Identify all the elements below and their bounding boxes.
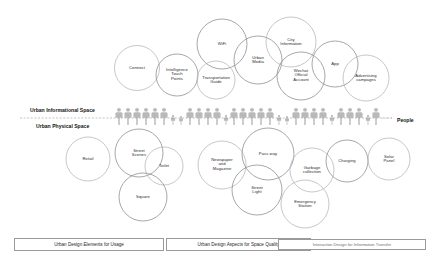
person-figure: [115, 108, 122, 125]
person-figure: [239, 108, 246, 125]
circle-retail: [66, 137, 110, 181]
person-figure: [257, 108, 264, 125]
circle-wechat-official-account: [277, 52, 325, 100]
person-figure: [133, 108, 140, 125]
person-figure: [310, 108, 317, 125]
person-figure: [301, 108, 308, 125]
circle-advertising-campaigns: [343, 55, 389, 101]
circle-street-scenes: [115, 129, 163, 177]
person-figure: [346, 108, 353, 125]
person-figure: [186, 108, 193, 125]
circle-intelligence-touch-points: [156, 54, 198, 96]
person-figure: [195, 108, 202, 125]
person-figure: [124, 108, 131, 125]
person-figure: [151, 108, 158, 125]
circle-app: [312, 41, 358, 87]
lower-circle-group: [66, 128, 410, 228]
upper-circle-group: [115, 17, 390, 101]
people-pictogram-row: [115, 108, 391, 125]
person-figure: [171, 115, 175, 125]
person-figure: [319, 108, 326, 125]
circle-garbage-collection: [290, 148, 334, 192]
label-people: People: [397, 117, 414, 123]
person-figure: [248, 108, 255, 125]
person-figure: [292, 108, 299, 125]
circle-pass-way: [242, 128, 294, 180]
circle-newspaper-and-magazine: [198, 141, 246, 189]
person-figure: [277, 115, 281, 125]
circle-street-light: [232, 165, 282, 215]
person-figure: [330, 115, 334, 125]
legend-usage-label: Urban Design Elements for Usage: [54, 242, 124, 247]
circle-emergency-station: [281, 180, 329, 228]
diagram-svg: [0, 0, 435, 263]
legend-usage: Urban Design Elements for Usage: [14, 238, 164, 251]
legend-information: Interaction Design for Information Trans…: [278, 239, 426, 250]
person-figure: [285, 116, 289, 125]
person-figure: [204, 108, 211, 125]
divider-dot: [382, 117, 383, 118]
person-figure: [213, 108, 220, 125]
person-figure: [224, 115, 228, 125]
circle-square: [119, 173, 167, 221]
circle-connect: [115, 46, 160, 91]
person-figure: [179, 116, 183, 125]
label-urban-physical-space: Urban Physical Space: [36, 123, 89, 129]
circle-wifi: [197, 19, 247, 69]
circle-transportation-guide: [197, 61, 235, 99]
person-figure: [266, 108, 273, 125]
person-figure: [355, 108, 362, 125]
person-figure: [372, 108, 379, 125]
person-figure: [337, 108, 344, 125]
person-figure: [230, 108, 237, 125]
label-urban-informational-space: Urban Informational Space: [30, 107, 95, 113]
legend-information-label: Interaction Design for Information Trans…: [313, 242, 391, 247]
circle-solar-panel: [368, 138, 410, 180]
legend-space-quality-label: Urban Design Aspects for Space Quality: [198, 242, 280, 247]
person-figure: [160, 108, 167, 125]
diagram-canvas: ConnectIntelligence Touch PointsWiFiTran…: [0, 0, 435, 263]
person-figure: [142, 108, 149, 125]
person-figure: [366, 115, 370, 125]
circle-toilet: [145, 147, 183, 185]
